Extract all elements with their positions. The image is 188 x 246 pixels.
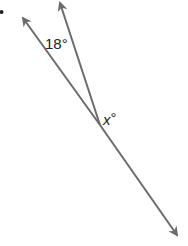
bullet-marker: • [0,4,4,20]
angle-x-label: x° [102,109,117,128]
angle-diagram: • 18° x° [0,0,188,246]
lower-right-ray [100,125,177,235]
middle-ray [60,3,100,125]
angle-18-label: 18° [45,35,68,52]
angle-x-degree: ° [111,109,117,126]
